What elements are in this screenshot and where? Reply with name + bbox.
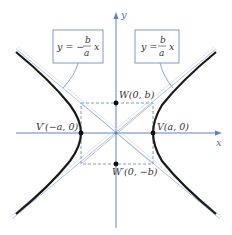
equation-box-positive: y = b a x — [135, 30, 179, 88]
y-axis-label: y — [120, 9, 127, 20]
label-V-prime: V′(−a, 0) — [36, 121, 78, 132]
svg-text:x: x — [169, 41, 175, 52]
point-V — [151, 131, 156, 136]
origin-point — [114, 131, 117, 134]
x-axis-arrow-icon — [215, 131, 222, 136]
equation-box-negative: y = − b a x — [53, 30, 103, 88]
hyperbola-diagram: W(0, b) W′(0, −b) V(a, 0) V′(−a, 0) y x … — [0, 0, 232, 235]
svg-text:a: a — [84, 48, 89, 58]
svg-text:b: b — [85, 35, 91, 45]
point-W — [114, 101, 119, 106]
label-W: W(0, b) — [119, 89, 155, 100]
svg-text:y =: y = — [140, 41, 157, 52]
x-axis-label: x — [216, 137, 222, 148]
svg-text:x: x — [94, 41, 100, 52]
point-V-prime — [79, 131, 84, 136]
svg-text:a: a — [159, 48, 164, 58]
label-W-prime: W′(0, −b) — [112, 166, 158, 177]
svg-text:b: b — [160, 35, 166, 45]
y-axis-arrow-icon — [114, 12, 119, 19]
svg-text:y = −: y = − — [56, 41, 84, 52]
label-V: V(a, 0) — [157, 121, 189, 132]
